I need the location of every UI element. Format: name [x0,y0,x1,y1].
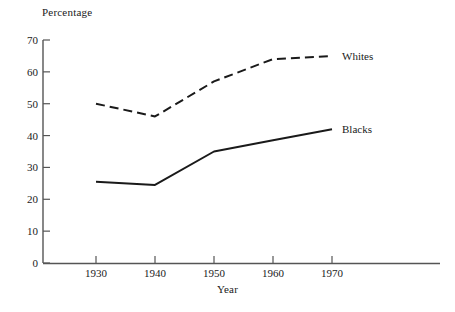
line-chart: Percentage Year 010203040506070 19301940… [0,0,455,312]
y-tick-label: 50 [6,98,38,110]
x-tick-label: 1960 [262,267,284,279]
x-tick-label: 1940 [144,267,166,279]
y-tick-label: 0 [6,257,38,269]
y-tick-label: 40 [6,130,38,142]
x-tick-label: 1950 [203,267,225,279]
series-lines [96,56,332,185]
y-tick-label: 30 [6,161,38,173]
y-tick-label: 70 [6,34,38,46]
series-label-blacks: Blacks [342,123,372,135]
series-line-blacks [96,129,332,185]
y-tick-marks [43,40,50,263]
plot-area [0,0,455,312]
x-tick-label: 1930 [85,267,107,279]
y-tick-label: 10 [6,225,38,237]
axis-lines [43,40,440,264]
series-line-whites [96,56,332,117]
y-tick-label: 20 [6,193,38,205]
y-tick-label: 60 [6,66,38,78]
x-tick-label: 1970 [321,267,343,279]
series-label-whites: Whites [342,50,373,62]
x-tick-marks [96,256,332,263]
